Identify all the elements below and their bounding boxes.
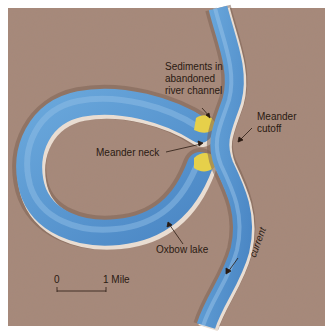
scale-end-label: 1 Mile [103,274,130,286]
label-meander-neck: Meander neck [96,147,159,159]
label-cutoff-line1: Meander [257,111,296,123]
scale-start-label: 0 [54,274,60,286]
oxbow-lake-diagram [0,0,333,335]
label-sediments-line3: river channel [165,85,245,97]
label-oxbow-lake: Oxbow lake [156,244,208,256]
label-sediments: Sediments in abandoned river channel [165,61,245,97]
label-sediments-line2: abandoned [165,73,245,85]
label-cutoff-line2: cutoff [257,123,296,135]
label-sediments-line1: Sediments in [165,61,245,73]
label-meander-cutoff: Meander cutoff [257,111,296,135]
